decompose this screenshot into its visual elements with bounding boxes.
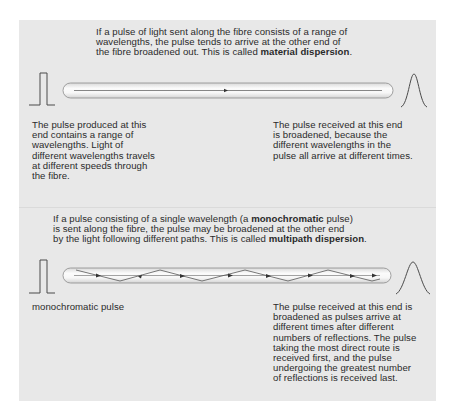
caption-line: of reflections is received last. (273, 373, 416, 383)
material-left-caption: The pulse produced at this end contains … (32, 120, 155, 181)
intro-text: . (349, 46, 352, 57)
intro-text: the fibre broadened out. This is called (96, 46, 260, 57)
intro-text: . (364, 233, 367, 244)
material-right-caption: The pulse received at this end is broade… (273, 120, 413, 161)
caption-line: pulse all arrive at different times. (273, 151, 413, 161)
multipath-right-caption: The pulse received at this end is broade… (273, 302, 416, 384)
intro-text: by the light following different paths. … (53, 233, 269, 244)
term-multipath-dispersion: multipath dispersion (269, 233, 364, 244)
intro-line: by the light following different paths. … (53, 234, 367, 244)
term-material-dispersion: material dispersion (260, 46, 349, 57)
section-divider (19, 207, 436, 208)
caption-line: the fibre. (32, 171, 155, 181)
material-dispersion-intro: If a pulse of light sent along the fibre… (96, 27, 352, 58)
multipath-dispersion-intro: If a pulse consisting of a single wavele… (53, 214, 367, 245)
multipath-left-caption: monochromatic pulse (32, 302, 124, 312)
intro-line: the fibre broadened out. This is called … (96, 47, 352, 57)
